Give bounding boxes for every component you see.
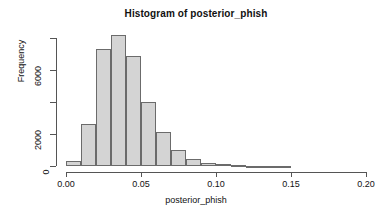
page-title: Histogram of posterior_phish <box>0 8 392 19</box>
x-tick <box>291 172 292 177</box>
histogram-bar <box>96 49 111 166</box>
x-tick <box>216 172 217 177</box>
y-tick-label-text: 0 <box>40 169 50 174</box>
histogram-bar <box>111 35 126 166</box>
y-tick <box>50 102 56 103</box>
histogram-bar <box>156 132 171 166</box>
y-tick <box>50 70 56 71</box>
histogram-bar <box>126 56 141 166</box>
x-tick <box>66 172 67 177</box>
histogram-bar <box>231 165 246 167</box>
histogram-plot: Histogram of posterior_phish Frequency 0… <box>0 0 392 211</box>
x-axis-label: posterior_phish <box>0 195 392 205</box>
histogram-bar <box>216 164 231 166</box>
y-axis-label: Frequency <box>16 6 26 116</box>
histogram-bar <box>276 166 291 168</box>
y-tick <box>50 134 56 135</box>
x-tick-label: 0.05 <box>121 179 161 189</box>
y-tick <box>50 38 56 39</box>
histogram-bar <box>186 159 201 166</box>
x-tick-label: 0.00 <box>46 179 86 189</box>
x-tick <box>366 172 367 177</box>
histogram-bar <box>171 150 186 166</box>
histogram-bar <box>66 161 81 166</box>
x-tick <box>141 172 142 177</box>
y-axis-line <box>56 38 57 166</box>
histogram-bar <box>246 166 261 168</box>
y-tick-label: 0 <box>0 161 48 171</box>
y-tick-label-text: 6000 <box>33 66 43 86</box>
x-tick-label: 0.20 <box>346 179 386 189</box>
histogram-bar <box>81 124 96 166</box>
y-tick <box>50 166 56 167</box>
histogram-bar <box>201 163 216 166</box>
y-tick-label: 6000 <box>0 65 48 75</box>
y-tick-label-text: 2000 <box>33 130 43 150</box>
histogram-bar <box>141 102 156 166</box>
histogram-bar <box>261 166 276 168</box>
x-tick-label: 0.15 <box>271 179 311 189</box>
y-tick-label: 2000 <box>0 129 48 139</box>
x-tick-label: 0.10 <box>196 179 236 189</box>
